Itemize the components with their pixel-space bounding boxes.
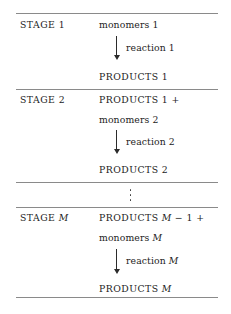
divider-rule-top: [16, 13, 218, 14]
divider-rule-bottom: [16, 297, 218, 298]
stage-1-input: monomers 1: [99, 20, 158, 29]
stage-m-carry-in: PRODUCTS M − 1 +: [99, 213, 204, 222]
stage-m-output-var: M: [162, 283, 172, 294]
stage-1-output: PRODUCTS 1: [99, 72, 168, 81]
stage-m-label-var: M: [59, 212, 69, 223]
stage-m-output-prefix: PRODUCTS: [99, 283, 158, 294]
stage-m-carry-in-var: M: [162, 212, 172, 223]
divider-rule-ellipsis-top: [16, 182, 218, 183]
stage-m-input-var: M: [152, 232, 162, 243]
stage-2-input: monomers 2: [99, 115, 158, 124]
stage-m-label: STAGE M: [20, 213, 68, 222]
stage-m-input-prefix: monomers: [99, 232, 149, 243]
vertical-ellipsis-icon: [129, 189, 132, 201]
divider-rule-stage-m: [16, 207, 218, 208]
stage-m-arrow-label-var: M: [169, 255, 179, 266]
stage-m-arrow-icon: [112, 249, 121, 275]
stage-1-arrow-label: reaction 1: [126, 43, 175, 52]
reaction-scheme-diagram: STAGE 1 monomers 1 reaction 1 PRODUCTS 1…: [0, 0, 231, 314]
stage-m-input: monomers M: [99, 233, 162, 242]
stage-m-arrow-label-prefix: reaction: [126, 255, 166, 266]
stage-2-output: PRODUCTS 2: [99, 165, 168, 174]
stage-m-carry-in-suffix: − 1 +: [175, 212, 205, 223]
stage-1-label: STAGE 1: [20, 20, 65, 29]
stage-2-arrow-label: reaction 2: [126, 137, 175, 146]
stage-1-arrow-icon: [112, 36, 121, 61]
stage-m-arrow-label: reaction M: [126, 256, 178, 265]
stage-2-arrow-icon: [112, 130, 121, 155]
stage-m-label-prefix: STAGE: [20, 212, 55, 223]
stage-m-carry-in-prefix: PRODUCTS: [99, 212, 158, 223]
divider-rule-stage-2: [16, 89, 218, 90]
stage-2-label: STAGE 2: [20, 95, 65, 104]
stage-2-carry-in: PRODUCTS 1 +: [99, 95, 180, 104]
stage-m-output: PRODUCTS M: [99, 284, 171, 293]
